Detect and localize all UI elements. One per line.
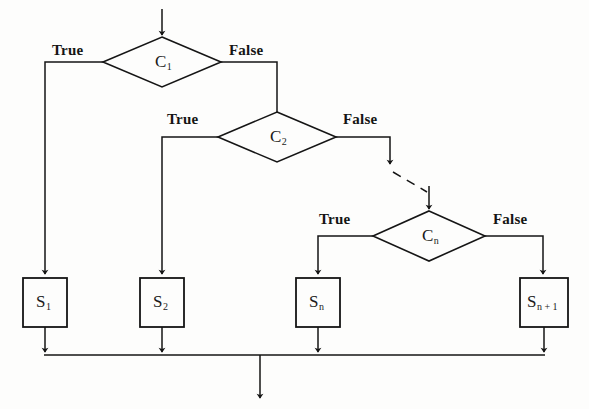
- process-sn1-subscript: n + 1: [537, 301, 558, 312]
- flowchart-graphics: [0, 0, 589, 409]
- process-sn1-symbol: S: [527, 292, 536, 311]
- decision-cn-symbol: C: [422, 226, 433, 245]
- label-c2-true: True: [167, 111, 198, 128]
- edge-c2-true: [162, 137, 218, 274]
- label-cn-true: True: [319, 211, 350, 228]
- label-c1-true: True: [52, 42, 83, 59]
- edge-cn-true: [318, 236, 373, 274]
- process-sn-text: Sn: [309, 292, 323, 312]
- process-s2-subscript: 2: [163, 301, 168, 312]
- process-s1-subscript: 1: [46, 301, 51, 312]
- process-s2-symbol: S: [153, 292, 162, 311]
- process-s2-text: S2: [153, 292, 167, 312]
- process-sn-symbol: S: [309, 292, 318, 311]
- edge-cn-false: [485, 236, 543, 274]
- label-cn-false: False: [493, 211, 527, 228]
- process-sn-subscript: n: [319, 301, 324, 312]
- decision-cn-subscript: n: [434, 235, 439, 246]
- process-sn1-text: Sn + 1: [527, 292, 557, 312]
- decision-c2-subscript: 2: [282, 136, 287, 147]
- edge-ellipsis-dashed: [393, 172, 427, 192]
- decision-cn-text: Cn: [422, 226, 438, 246]
- decision-c1-subscript: 1: [167, 61, 172, 72]
- decision-c1-symbol: C: [155, 52, 166, 71]
- decision-c2-symbol: C: [270, 127, 281, 146]
- label-c2-false: False: [343, 111, 377, 128]
- decision-c1-text: C1: [155, 52, 171, 72]
- flowchart-canvas: True False True False True False C1 C2 C…: [0, 0, 589, 409]
- decision-c2-text: C2: [270, 127, 286, 147]
- edge-c1-true: [45, 62, 103, 274]
- process-s1-text: S1: [36, 292, 50, 312]
- process-s1-symbol: S: [36, 292, 45, 311]
- label-c1-false: False: [229, 42, 263, 59]
- edge-c2-false: [336, 137, 390, 164]
- edge-c1-false: [221, 62, 277, 112]
